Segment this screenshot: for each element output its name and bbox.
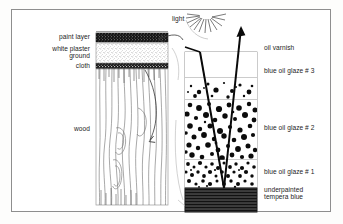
label-light: light — [172, 15, 208, 22]
label-blue-oil-glaze-2: blue oil glaze # 2 — [264, 124, 340, 131]
right-panel-stack — [184, 52, 257, 212]
layer-cloth — [96, 64, 168, 69]
label-cloth: cloth — [40, 62, 90, 69]
layer-paint-layer — [96, 33, 168, 42]
label-wood: wood — [40, 125, 90, 132]
left-panel-stack — [96, 32, 168, 206]
layer-wood — [96, 69, 168, 205]
layer-white-plaster-ground — [96, 43, 168, 63]
label-oil-varnish: oil varnish — [264, 44, 338, 51]
layer-underpainted-tempera-blue — [185, 188, 257, 212]
label-blue-oil-glaze-1: blue oil glaze # 1 — [264, 168, 340, 175]
layer-oil-varnish — [185, 52, 257, 78]
label-white-plaster-ground: white plaster ground — [16, 45, 90, 59]
label-blue-oil-glaze-3: blue oil glaze # 3 — [264, 67, 340, 74]
arrowhead-up-icon — [237, 26, 246, 37]
label-underpainted-tempera-blue: underpainted tempera blue — [264, 186, 340, 200]
label-paint-layer: paint layer — [24, 33, 90, 40]
figure-root: paint layer white plaster ground cloth w… — [0, 0, 343, 224]
